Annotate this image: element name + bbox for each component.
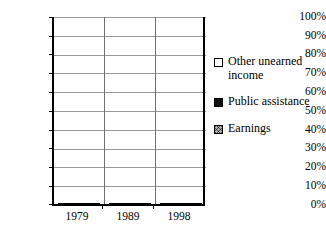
gridline-20 bbox=[54, 167, 206, 168]
plot-area bbox=[52, 17, 204, 205]
x-tick-mark-1 bbox=[102, 205, 103, 209]
gridline-80 bbox=[54, 55, 206, 56]
x-tick-label-1998: 1998 bbox=[149, 210, 209, 222]
legend-label-public-assistance: Public assistance bbox=[228, 95, 326, 109]
category-separator-1 bbox=[104, 17, 105, 205]
gridline-40 bbox=[54, 130, 206, 131]
gridline-30 bbox=[54, 149, 206, 150]
legend-item-earnings: Earnings bbox=[214, 122, 326, 136]
public-assistance-swatch-icon bbox=[214, 98, 223, 107]
x-tick-mark-2 bbox=[153, 205, 154, 209]
other-unearned-income-swatch-icon bbox=[214, 58, 223, 67]
y-tick-label-0: 0% bbox=[278, 199, 326, 210]
gridline-100 bbox=[54, 17, 206, 18]
legend-label-earnings: Earnings bbox=[228, 122, 326, 136]
y-tick-label-90: 90% bbox=[278, 30, 326, 41]
chart-legend: Other unearned income Public assistance … bbox=[214, 55, 326, 144]
stacked-bar-chart: 100% 90% 80% 70% 60% 50% 40% 30% 20% 10%… bbox=[0, 0, 326, 240]
plot-right-border bbox=[203, 17, 205, 206]
gridline-50 bbox=[54, 111, 206, 112]
legend-item-other-unearned-income: Other unearned income bbox=[214, 55, 326, 82]
y-tick-label-100: 100% bbox=[278, 11, 326, 22]
gridline-60 bbox=[54, 92, 206, 93]
earnings-swatch-icon bbox=[214, 125, 223, 134]
legend-label-other-unearned-income-line1: Other unearned bbox=[228, 55, 326, 69]
legend-label-other-unearned-income-line2: income bbox=[228, 69, 326, 83]
gridline-70 bbox=[54, 73, 206, 74]
gridline-10 bbox=[54, 186, 206, 187]
x-axis-line bbox=[52, 204, 205, 206]
legend-item-public-assistance: Public assistance bbox=[214, 95, 326, 109]
y-tick-label-20: 20% bbox=[278, 161, 326, 172]
category-separator-2 bbox=[155, 17, 156, 205]
y-tick-label-10: 10% bbox=[278, 180, 326, 191]
gridline-90 bbox=[54, 36, 206, 37]
